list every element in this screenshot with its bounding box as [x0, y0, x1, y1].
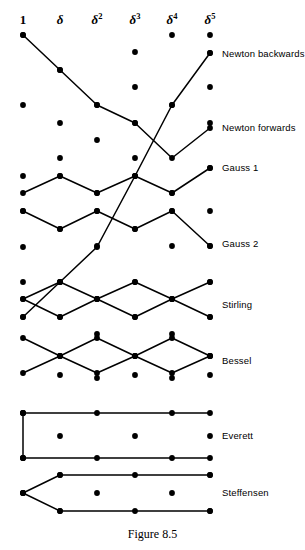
grid-dot	[132, 155, 138, 161]
column-header-c4: δ4	[167, 12, 178, 26]
scheme-path-bessel	[23, 338, 210, 356]
column-header-symbol: δ	[57, 12, 64, 27]
grid-dot	[132, 84, 138, 90]
grid-dot	[207, 372, 213, 378]
grid-dot	[207, 32, 213, 38]
column-header-c3: δ3	[130, 12, 141, 26]
scheme-path-gauss-2	[23, 211, 210, 246]
grid-dot	[132, 49, 138, 55]
grid-dot	[207, 84, 213, 90]
column-header-exponent: 4	[173, 11, 177, 21]
grid-dot	[20, 244, 26, 250]
column-header-symbol: δ	[92, 12, 99, 27]
scheme-path-steffensen	[23, 493, 210, 511]
scheme-path-stirling	[23, 299, 210, 317]
scheme-path-gauss-1	[23, 168, 210, 193]
column-header-symbol: δ	[130, 12, 137, 27]
column-header-exponent: 3	[136, 11, 140, 21]
grid-dot	[169, 375, 175, 381]
grid-dot	[20, 102, 26, 108]
scheme-label-stirling: Stirling	[222, 300, 252, 310]
scheme-path-steffensen	[23, 475, 210, 493]
grid-dot	[57, 433, 63, 439]
grid-dot	[94, 490, 100, 496]
scheme-label-gauss-1: Gauss 1	[222, 163, 258, 173]
grid-dot	[207, 120, 213, 126]
scheme-label-newton-backwards: Newton backwards	[222, 49, 305, 59]
column-header-symbol: δ	[205, 12, 212, 27]
grid-dot	[57, 155, 63, 161]
column-header-c0: 1	[20, 13, 27, 26]
figure-caption: Figure 8.5	[0, 528, 305, 540]
grid-dot	[57, 372, 63, 378]
dot-grid-layer	[20, 32, 213, 514]
grid-dot	[20, 173, 26, 179]
scheme-path-newton-forwards	[23, 35, 210, 158]
column-header-symbol: δ	[167, 12, 174, 27]
scheme-path-layer	[23, 35, 210, 511]
column-header-c5: δ5	[205, 12, 216, 26]
scheme-label-gauss-2: Gauss 2	[222, 239, 258, 249]
column-header-c2: δ2	[92, 12, 103, 26]
scheme-label-newton-forwards: Newton forwards	[222, 123, 296, 133]
column-header-symbol: 1	[20, 12, 27, 27]
scheme-label-steffensen: Steffensen	[222, 488, 269, 498]
scheme-label-everett: Everett	[222, 431, 253, 441]
column-header-exponent: 2	[98, 11, 102, 21]
grid-dot	[94, 137, 100, 143]
grid-dot	[169, 490, 175, 496]
grid-dot	[207, 433, 213, 439]
column-header-exponent: 5	[211, 11, 215, 21]
grid-dot	[169, 243, 175, 249]
scheme-label-bessel: Bessel	[222, 356, 251, 366]
grid-dot	[169, 32, 175, 38]
grid-dot	[132, 372, 138, 378]
scheme-path-bessel	[23, 356, 210, 373]
grid-dot	[207, 208, 213, 214]
grid-dot	[94, 375, 100, 381]
grid-dot	[132, 433, 138, 439]
column-header-c1: δ	[57, 13, 64, 26]
grid-dot	[57, 120, 63, 126]
lozenge-diagram-canvas	[0, 0, 305, 550]
figure-container: 1δδ2δ3δ4δ5 Newton backwardsNewton forwar…	[0, 0, 305, 550]
grid-dot	[20, 279, 26, 285]
